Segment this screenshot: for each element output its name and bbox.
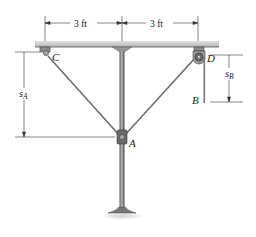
s-a-dimension xyxy=(15,52,115,137)
rope-b xyxy=(204,57,206,103)
pulley-collar-diagram: 3 ft 3 ft sA xyxy=(0,0,256,237)
collar-a xyxy=(117,130,127,144)
point-d-label: D xyxy=(206,52,215,64)
pulley-d xyxy=(193,47,205,64)
point-a-label: A xyxy=(128,137,136,149)
top-dimension xyxy=(45,16,198,42)
post-base xyxy=(108,207,136,213)
anchor-c xyxy=(40,47,50,56)
s-b-label: sB xyxy=(225,68,234,81)
s-a-label: sA xyxy=(19,88,28,101)
left-span-label: 3 ft xyxy=(74,19,87,29)
right-span-label: 3 ft xyxy=(150,19,163,29)
point-b-label: B xyxy=(192,94,199,106)
ceiling-beam xyxy=(35,41,219,47)
point-c-label: C xyxy=(52,51,60,63)
